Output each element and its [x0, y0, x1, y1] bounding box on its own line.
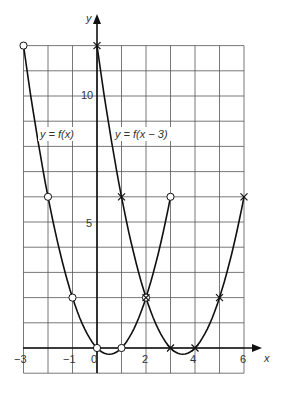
- grid: [24, 46, 245, 374]
- curve-label-f-x-minus-3: y = f(x − 3): [114, 128, 168, 140]
- x-axis: [23, 344, 262, 352]
- x-tick: −3: [14, 353, 27, 365]
- curve-label-f-x: y = f(x): [39, 128, 74, 140]
- x-tick: 4: [190, 353, 196, 365]
- x-tick: −1: [63, 353, 76, 365]
- x-tick: 6: [240, 353, 246, 365]
- y-axis-label: y: [85, 12, 93, 24]
- circle-marker: [20, 42, 27, 49]
- y-arrow-icon: [93, 14, 101, 24]
- circle-marker: [167, 193, 174, 200]
- circle-marker: [93, 344, 100, 351]
- circle-marker: [44, 193, 51, 200]
- x-tick: 0: [91, 353, 97, 365]
- graph: y x −3 −1 0 2 4 6 5 10 y = f(x) y = f(x …: [0, 0, 290, 398]
- x-axis-label: x: [263, 352, 270, 364]
- x-tick: 2: [142, 353, 148, 365]
- circle-marker: [69, 294, 76, 301]
- circle-marker: [118, 344, 125, 351]
- x-arrow-icon: [252, 344, 262, 352]
- y-tick: 5: [86, 217, 92, 229]
- y-tick: 10: [81, 89, 93, 101]
